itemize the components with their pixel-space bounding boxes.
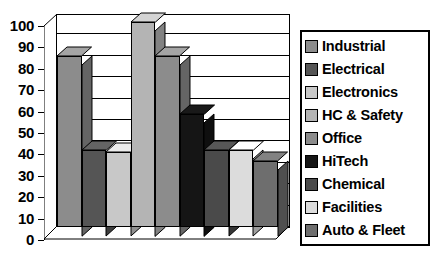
bar: [57, 56, 82, 227]
legend-swatch-icon: [305, 63, 318, 76]
chart-legend: IndustrialElectricalElectronicsHC & Safe…: [300, 30, 430, 246]
legend-item-label: Electronics: [322, 85, 398, 100]
legend-item[interactable]: Electrical: [305, 58, 426, 81]
legend-item[interactable]: Facilities: [305, 196, 426, 219]
y-axis-tick-label: 70: [18, 82, 34, 97]
legend-item-label: Auto & Fleet: [322, 223, 405, 238]
y-axis-tick-mark: [38, 240, 44, 241]
y-axis-tick-label: 90: [18, 39, 34, 54]
bar-front-face: [57, 56, 82, 227]
bar: [180, 114, 205, 227]
legend-swatch-icon: [305, 155, 318, 168]
bar-top-face: [82, 141, 107, 150]
y-axis-tick-label: 80: [18, 61, 34, 76]
legend-item-label: Chemical: [322, 177, 385, 192]
y-axis-tick-label: 40: [18, 146, 34, 161]
bar-front-face: [229, 150, 254, 227]
bar: [82, 150, 107, 227]
y-axis-tick-label: 20: [18, 189, 34, 204]
bar-top-face: [180, 105, 205, 114]
bar-top-face: [106, 143, 131, 152]
legend-item[interactable]: Electronics: [305, 81, 426, 104]
bar: [253, 161, 278, 227]
y-axis-tick-label: 100: [10, 18, 34, 33]
bar-side-face: [278, 161, 288, 227]
bar-top-face: [253, 152, 278, 161]
legend-swatch-icon: [305, 201, 318, 214]
bar: [131, 22, 156, 227]
plot-area: [44, 14, 290, 240]
legend-item[interactable]: HC & Safety: [305, 104, 426, 127]
bar: [106, 152, 131, 227]
legend-item-label: Facilities: [322, 200, 382, 215]
bar-front-face: [106, 152, 131, 227]
y-axis-tick-label: 30: [18, 168, 34, 183]
bar: [204, 150, 229, 227]
y-axis-tick-label: 50: [18, 125, 34, 140]
y-axis-tick-label: 60: [18, 104, 34, 119]
bar: [229, 150, 254, 227]
legend-swatch-icon: [305, 178, 318, 191]
bar-front-face: [204, 150, 229, 227]
legend-swatch-icon: [305, 132, 318, 145]
bar-series: [44, 14, 290, 240]
legend-item[interactable]: Chemical: [305, 173, 426, 196]
y-axis-tick-label: 0: [26, 232, 34, 247]
legend-swatch-icon: [305, 224, 318, 237]
bar: [155, 56, 180, 227]
y-axis: 1009080706050403020100: [0, 0, 46, 250]
legend-swatch-icon: [305, 40, 318, 53]
bar-front-face: [253, 161, 278, 227]
legend-item[interactable]: Office: [305, 127, 426, 150]
legend-item-label: Industrial: [322, 39, 385, 54]
legend-item[interactable]: Industrial: [305, 35, 426, 58]
legend-item-label: Electrical: [322, 62, 385, 77]
bar-front-face: [180, 114, 205, 227]
bar-front-face: [82, 150, 107, 227]
legend-swatch-icon: [305, 109, 318, 122]
legend-item-label: HC & Safety: [322, 108, 403, 123]
bar-top-face: [131, 13, 156, 22]
bar-front-face: [155, 56, 180, 227]
bar-front-face: [131, 22, 156, 227]
legend-item-label: Office: [322, 131, 362, 146]
bar-chart: 1009080706050403020100 IndustrialElectri…: [0, 0, 434, 269]
bar-top-face: [57, 47, 82, 56]
legend-item[interactable]: Auto & Fleet: [305, 219, 426, 242]
y-axis-tick-label: 10: [18, 211, 34, 226]
bar-top-face: [229, 141, 254, 150]
bar-top-face: [204, 141, 229, 150]
legend-item[interactable]: HiTech: [305, 150, 426, 173]
bar-top-face: [155, 47, 180, 56]
legend-item-label: HiTech: [322, 154, 368, 169]
legend-swatch-icon: [305, 86, 318, 99]
